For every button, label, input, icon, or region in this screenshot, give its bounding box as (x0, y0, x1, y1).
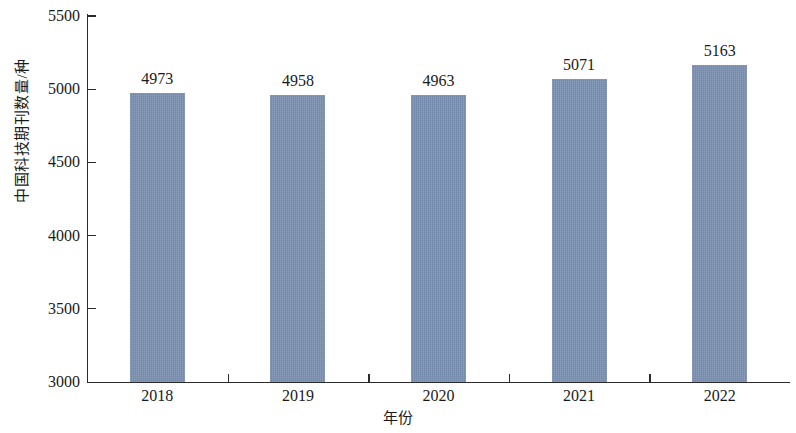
bar (552, 79, 607, 382)
y-tick-mark (88, 15, 96, 16)
y-tick-label: 4500 (8, 154, 80, 170)
bar-value-label: 5071 (519, 57, 639, 73)
y-tick-label: 5500 (8, 8, 80, 24)
y-tick-label: 3500 (8, 301, 80, 317)
bar (270, 95, 325, 382)
y-axis-title: 中国科技期刊数量/种 (10, 11, 31, 251)
bar (130, 93, 185, 382)
y-tick-mark (88, 89, 96, 90)
y-tick-mark (88, 308, 96, 309)
x-tick-mark (509, 374, 510, 382)
x-tick-label: 2021 (519, 387, 639, 405)
bar (692, 65, 747, 382)
bar-value-label: 4958 (238, 73, 358, 89)
x-tick-label: 2020 (379, 387, 499, 405)
bar-value-label: 4973 (97, 71, 217, 87)
bar-value-label: 4963 (379, 73, 499, 89)
y-tick-label: 5000 (8, 81, 80, 97)
x-tick-mark (228, 374, 229, 382)
y-axis-line (87, 14, 88, 383)
y-tick-mark (88, 162, 96, 163)
x-tick-label: 2018 (97, 387, 217, 405)
y-tick-label: 4000 (8, 228, 80, 244)
x-tick-mark (368, 374, 369, 382)
x-tick-label: 2019 (238, 387, 358, 405)
bar-value-label: 5163 (660, 43, 780, 59)
bar-chart: 中国科技期刊数量/种 300035004000450050005500 4973… (0, 0, 796, 433)
x-axis-title: 年份 (0, 406, 796, 427)
y-tick-label: 3000 (8, 374, 80, 390)
bar (411, 95, 466, 382)
x-tick-label: 2022 (660, 387, 780, 405)
x-tick-mark (649, 374, 650, 382)
y-tick-mark (88, 235, 96, 236)
